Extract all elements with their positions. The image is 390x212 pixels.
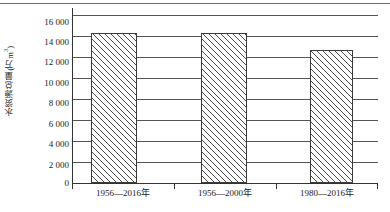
x-axis-label-1956-2000: 1956—2000年 [174, 188, 276, 199]
bar-1956-2016 [91, 33, 137, 183]
y-tick-label-12000: 12 000 [44, 58, 69, 67]
y-tick-label-0: 0 [65, 179, 70, 188]
y-tick-label-4000: 4 000 [49, 140, 69, 149]
x-axis-label-1956-2016: 1956—2016年 [72, 188, 174, 199]
x-axis-label-1980-2016: 1980—2016年 [276, 188, 378, 199]
y-axis-tick-labels: 16 000 14 000 12 000 10 000 8 000 6 000 … [14, 0, 69, 212]
y-axis-line [72, 8, 73, 184]
y-tick-label-16000: 16 000 [44, 18, 69, 27]
y-tick-label-10000: 10 000 [44, 79, 69, 88]
y-tick-label-2000: 2 000 [49, 161, 69, 170]
y-tick-label-8000: 8 000 [49, 99, 69, 108]
y-tick-label-6000: 6 000 [49, 120, 69, 129]
x-axis-line [72, 183, 378, 184]
bar-1980-2016 [310, 50, 353, 183]
gridline-16000 [72, 15, 378, 16]
y-axis-title-superscript: 3 [2, 49, 9, 52]
y-axis-title: 水资源总量(万m3) [1, 46, 14, 116]
bar-chart: 水资源总量(万m3) 16 000 14 000 12 000 10 000 8… [0, 0, 390, 212]
bar-1956-2000 [201, 33, 247, 183]
y-tick-label-14000: 14 000 [44, 38, 69, 47]
